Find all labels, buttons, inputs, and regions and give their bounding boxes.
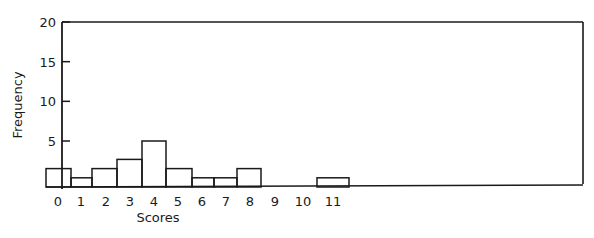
histogram-bar (92, 169, 117, 187)
x-tick-label: 8 (246, 194, 254, 209)
y-axis-title: Frequency (10, 71, 25, 138)
x-tick-label: 7 (222, 194, 230, 209)
histogram-chart: 5101520 01234567891011 Scores Frequency (0, 0, 594, 238)
y-tick-label: 10 (39, 94, 56, 109)
histogram-bar (237, 169, 261, 187)
x-tick-label: 4 (150, 194, 158, 209)
x-tick-label: 2 (102, 194, 110, 209)
x-tick-label: 9 (271, 194, 279, 209)
y-tick-label: 20 (39, 15, 56, 30)
x-tick-label: 3 (126, 194, 134, 209)
x-tick-label: 1 (77, 194, 85, 209)
x-tick-label: 10 (295, 194, 312, 209)
x-tick-label: 0 (54, 194, 62, 209)
bars (46, 141, 349, 187)
x-tick-label: 6 (198, 194, 206, 209)
histogram-bar (117, 159, 142, 187)
histogram-bar (71, 178, 92, 187)
x-axis: 01234567891011 (54, 194, 341, 209)
y-tick-label: 15 (39, 55, 56, 70)
x-axis-title: Scores (136, 210, 179, 225)
y-tick-label: 5 (48, 134, 56, 149)
histogram-bar (166, 169, 192, 187)
x-tick-label: 5 (174, 194, 182, 209)
histogram-bar (142, 141, 166, 187)
y-axis: 5101520 (39, 15, 70, 149)
histogram-bar (46, 169, 71, 187)
plot-frame (46, 22, 583, 189)
x-tick-label: 11 (325, 194, 342, 209)
